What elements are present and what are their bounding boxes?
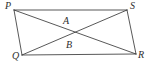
geometry-figure: P S R Q A B — [0, 0, 150, 66]
vertex-label-p: P — [5, 1, 11, 11]
vertex-label-q: Q — [12, 51, 19, 61]
segment-qs — [22, 10, 127, 55]
point-label-a: A — [63, 16, 69, 26]
segment-sr — [127, 10, 136, 54]
vertex-label-s: S — [130, 1, 135, 11]
segment-group — [14, 10, 136, 55]
point-label-b: B — [66, 40, 72, 50]
vertex-label-r: R — [138, 50, 144, 60]
geometry-canvas — [0, 0, 150, 66]
segment-qp — [14, 10, 22, 55]
segment-rq — [22, 54, 136, 55]
